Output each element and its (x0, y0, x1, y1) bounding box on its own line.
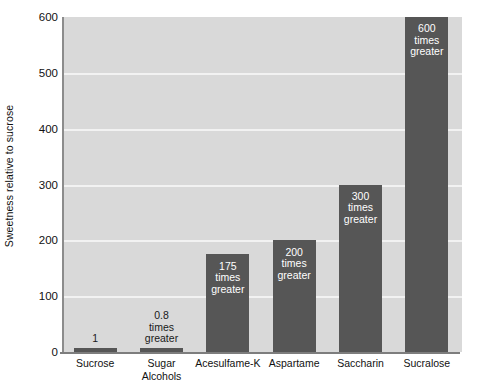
y-axis-tick-label: 400 (18, 123, 58, 135)
bar[interactable] (140, 348, 183, 352)
x-axis-tick-label: Sucrose (62, 357, 128, 370)
y-axis-tick-label: 600 (18, 11, 58, 23)
bar-value-label: 300 times greater (325, 191, 396, 226)
x-axis-tick-label: Sugar Alcohols (128, 357, 194, 382)
bar-value-label: 175 times greater (192, 260, 263, 295)
bar-group: 300 times greater (339, 17, 382, 352)
x-axis-tick-label: Acesulfame-K (195, 357, 261, 370)
bar[interactable] (74, 348, 117, 352)
x-axis-line (60, 352, 460, 354)
y-axis-tick-label: 300 (18, 179, 58, 191)
x-axis-tick-label: Saccharin (327, 357, 393, 370)
y-axis-tick-label: 200 (18, 234, 58, 246)
bar-group: 175 times greater (206, 17, 249, 352)
bar[interactable] (405, 17, 448, 352)
bar-group: 1 (74, 17, 117, 352)
bar-value-label: 0.8 times greater (126, 310, 197, 345)
bar-group: 600 times greater (405, 17, 448, 352)
y-axis-tick-label: 100 (18, 290, 58, 302)
x-axis-tick-labels: SucroseSugar AlcoholsAcesulfame-KAsparta… (62, 357, 460, 388)
bar-group: 0.8 times greater (140, 17, 183, 352)
y-axis-tick-label: 500 (18, 67, 58, 79)
y-axis-tick-label: 0 (18, 346, 58, 358)
bar-value-label: 1 (60, 333, 131, 345)
y-axis-title: Sweetness relative to sucrose (0, 0, 18, 352)
x-axis-tick-label: Sucralose (394, 357, 460, 370)
x-axis-tick-label: Aspartame (261, 357, 327, 370)
bars-layer: 10.8 times greater175 times greater200 t… (62, 17, 460, 352)
bar-group: 200 times greater (273, 17, 316, 352)
y-axis-tick-labels: 0100200300400500600 (18, 0, 58, 388)
sweetness-bar-chart: Sweetness relative to sucrose 0100200300… (0, 0, 483, 388)
y-axis-title-text: Sweetness relative to sucrose (3, 105, 15, 247)
bar-value-label: 600 times greater (391, 23, 462, 58)
bar-value-label: 200 times greater (259, 246, 330, 281)
